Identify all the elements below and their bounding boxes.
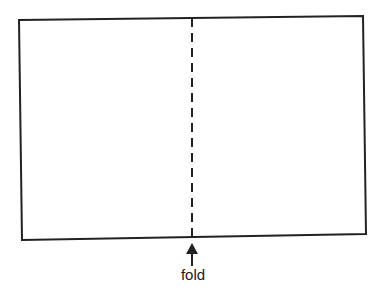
fold-diagram <box>0 0 382 299</box>
arrow-up-icon <box>186 243 198 266</box>
fold-label: fold <box>172 266 214 283</box>
